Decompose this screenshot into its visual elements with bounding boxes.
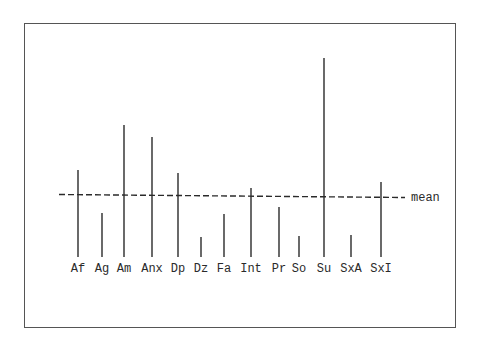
category-label-int: Int xyxy=(240,262,262,276)
category-label-sxa: SxA xyxy=(340,262,362,276)
category-label-am: Am xyxy=(117,262,131,276)
mean-reference-line xyxy=(59,195,405,198)
category-label-anx: Anx xyxy=(141,262,163,276)
mean-label: mean xyxy=(411,191,440,205)
category-label-sxi: SxI xyxy=(370,262,392,276)
category-labels: AfAgAmAnxDpDzFaIntPrSoSuSxASxI xyxy=(71,262,392,276)
category-label-fa: Fa xyxy=(217,262,231,276)
category-label-dz: Dz xyxy=(194,262,208,276)
category-label-so: So xyxy=(292,262,306,276)
chart-plot-area: mean AfAgAmAnxDpDzFaIntPrSoSuSxASxI xyxy=(0,0,483,349)
category-label-su: Su xyxy=(317,262,331,276)
category-label-af: Af xyxy=(71,262,85,276)
spike-series xyxy=(78,58,381,257)
category-label-pr: Pr xyxy=(272,262,286,276)
category-label-ag: Ag xyxy=(95,262,109,276)
category-label-dp: Dp xyxy=(171,262,185,276)
